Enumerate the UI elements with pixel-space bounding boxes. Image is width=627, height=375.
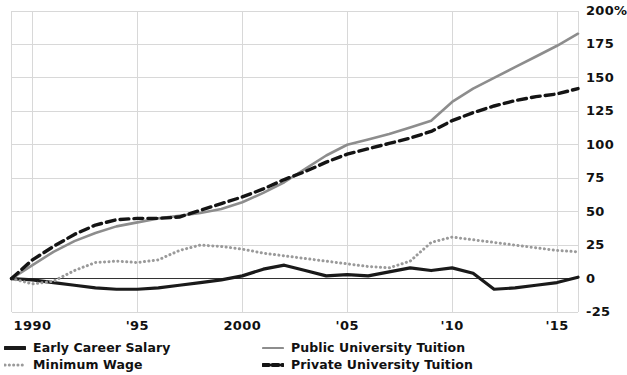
x-axis-tick-label: 1990 xyxy=(14,318,52,333)
legend-swatch-solid-thin-icon xyxy=(262,342,284,354)
legend-label: Private University Tuition xyxy=(291,358,473,371)
y-axis-tick-label: 25 xyxy=(586,237,605,252)
legend-label: Minimum Wage xyxy=(33,358,143,371)
y-axis-tick-label: 150 xyxy=(586,70,614,85)
legend-swatch-dashed-icon xyxy=(262,359,284,371)
legend-item[interactable]: Minimum Wage xyxy=(4,357,143,372)
y-axis-tick-label: 200% xyxy=(586,3,627,18)
legend-item[interactable]: Private University Tuition xyxy=(262,357,473,372)
series-line-public-university-tuition xyxy=(12,34,579,279)
legend-item[interactable]: Early Career Salary xyxy=(4,340,171,355)
series-line-early-career-salary xyxy=(12,265,579,289)
y-axis-tick-label: 175 xyxy=(586,36,614,51)
series-line-minimum-wage xyxy=(12,237,579,284)
y-axis-tick-label: 100 xyxy=(586,137,614,152)
y-axis-tick-label: 75 xyxy=(586,170,605,185)
x-axis-tick-label: '95 xyxy=(126,318,149,333)
legend-label: Early Career Salary xyxy=(33,341,171,354)
x-axis-tick-label: '05 xyxy=(336,318,359,333)
chart-legend: Early Career SalaryMinimum WagePublic Un… xyxy=(0,340,624,375)
y-axis-tick-label: 0 xyxy=(586,271,595,286)
legend-swatch-dotted-icon xyxy=(4,359,26,371)
y-axis-tick-label: -25 xyxy=(586,304,610,319)
x-axis-tick-label: '10 xyxy=(440,318,463,333)
x-axis-tick-label: '15 xyxy=(545,318,568,333)
legend-swatch-solid-icon xyxy=(4,342,26,354)
series-line-private-university-tuition xyxy=(12,89,579,279)
x-axis-tick-label: 2000 xyxy=(223,318,261,333)
legend-item[interactable]: Public University Tuition xyxy=(262,340,465,355)
y-axis-tick-label: 50 xyxy=(586,204,605,219)
y-axis-tick-label: 125 xyxy=(586,103,614,118)
legend-label: Public University Tuition xyxy=(291,341,465,354)
